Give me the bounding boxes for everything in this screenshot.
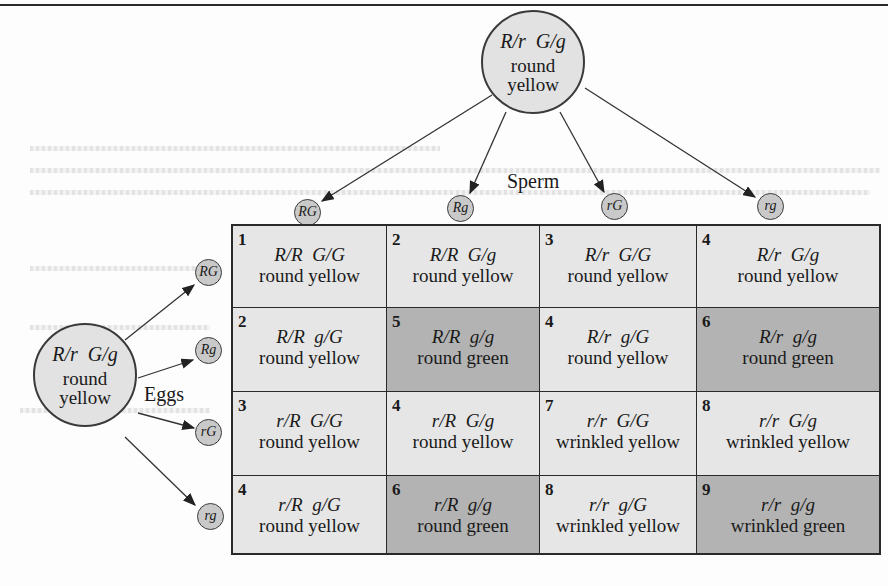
sperm-gamete-rg: rg xyxy=(757,193,784,220)
arrow-egg-Rg xyxy=(138,360,193,378)
egg-gamete-Rg: Rg xyxy=(195,337,222,364)
phenotype-class-number: 4 xyxy=(702,230,711,250)
cell-phenotype: round yellow xyxy=(387,265,539,287)
cell-phenotype: round yellow xyxy=(233,347,386,369)
cell-genotype: R/R G/g xyxy=(387,245,539,265)
punnett-cell: 8r/r G/gwrinkled yellow xyxy=(697,392,879,476)
cell-phenotype: round green xyxy=(697,347,879,369)
phenotype-class-number: 2 xyxy=(392,230,401,250)
cell-genotype: r/R g/G xyxy=(233,495,386,515)
cell-genotype: r/r G/g xyxy=(697,411,879,431)
cell-phenotype: wrinkled green xyxy=(697,515,879,537)
sperm-gamete-Rg: Rg xyxy=(447,195,474,222)
cell-phenotype: round yellow xyxy=(697,265,879,287)
phenotype-class-number: 4 xyxy=(392,396,401,416)
cell-phenotype: wrinkled yellow xyxy=(697,431,879,453)
cell-phenotype: round yellow xyxy=(233,515,386,537)
punnett-cell: 7r/r G/Gwrinkled yellow xyxy=(540,392,697,476)
cell-genotype: r/R G/g xyxy=(387,411,539,431)
punnett-cell: 5R/R g/ground green xyxy=(387,308,540,392)
punnett-cell: 4r/R g/Ground yellow xyxy=(233,476,387,553)
punnett-cell: 4r/R G/ground yellow xyxy=(387,392,540,476)
egg-gamete-rg: rg xyxy=(197,503,224,530)
phenotype-class-number: 8 xyxy=(702,396,711,416)
cell-phenotype: round green xyxy=(387,347,539,369)
sperm-gamete-rG: rG xyxy=(601,193,628,220)
punnett-cell: 9r/r g/gwrinkled green xyxy=(697,476,879,553)
punnett-cell: 1R/R G/Ground yellow xyxy=(233,226,387,308)
phenotype-class-number: 4 xyxy=(545,312,554,332)
phenotype-class-number: 4 xyxy=(238,480,247,500)
cell-genotype: R/R g/G xyxy=(233,327,386,347)
punnett-cell: 6r/R g/ground green xyxy=(387,476,540,553)
phenotype-class-number: 2 xyxy=(238,312,247,332)
male-parent-phenotype-2: yellow xyxy=(507,75,559,94)
sperm-gamete-RG: RG xyxy=(294,199,321,226)
cell-genotype: R/r G/g xyxy=(697,245,879,265)
cell-genotype: r/R G/G xyxy=(233,411,386,431)
arrow-egg-RG xyxy=(125,285,194,340)
cell-phenotype: round green xyxy=(387,515,539,537)
cell-phenotype: round yellow xyxy=(233,265,386,287)
phenotype-class-number: 6 xyxy=(392,480,401,500)
punnett-cell: 3r/R G/Ground yellow xyxy=(233,392,387,476)
punnett-cell: 2R/R g/Ground yellow xyxy=(233,308,387,392)
arrow-sperm-rG xyxy=(560,112,604,192)
eggs-label: Eggs xyxy=(144,383,184,406)
male-parent-genotype: R/r G/g xyxy=(500,30,566,52)
cell-genotype: r/r g/G xyxy=(540,495,696,515)
punnett-cell: 3R/r G/Ground yellow xyxy=(540,226,697,308)
phenotype-class-number: 6 xyxy=(702,312,711,332)
punnett-cell: 6R/r g/ground green xyxy=(697,308,879,392)
male-parent-circle: R/r G/g round yellow xyxy=(481,10,585,114)
arrow-egg-rg xyxy=(125,437,195,505)
cell-genotype: R/r g/g xyxy=(697,327,879,347)
cell-genotype: R/R g/g xyxy=(387,327,539,347)
cell-phenotype: wrinkled yellow xyxy=(540,515,696,537)
arrow-sperm-RG xyxy=(322,95,492,201)
punnett-cell: 8r/r g/Gwrinkled yellow xyxy=(540,476,697,553)
phenotype-class-number: 9 xyxy=(702,480,711,500)
arrow-sperm-rg xyxy=(585,88,755,197)
cell-genotype: R/r g/G xyxy=(540,327,696,347)
cell-genotype: R/R G/G xyxy=(233,245,386,265)
cell-genotype: r/r G/G xyxy=(540,411,696,431)
cell-genotype: R/r G/G xyxy=(540,245,696,265)
male-parent-phenotype-1: round xyxy=(511,56,555,75)
cell-phenotype: wrinkled yellow xyxy=(540,431,696,453)
punnett-cell: 2R/R G/ground yellow xyxy=(387,226,540,308)
egg-gamete-rG: rG xyxy=(195,419,222,446)
phenotype-class-number: 7 xyxy=(545,396,554,416)
punnett-cell: 4R/r G/ground yellow xyxy=(697,226,879,308)
female-parent-genotype: R/r G/g xyxy=(52,343,118,365)
phenotype-class-number: 5 xyxy=(392,312,401,332)
female-parent-phenotype-1: round xyxy=(63,369,107,388)
arrow-sperm-Rg xyxy=(470,112,506,193)
cell-phenotype: round yellow xyxy=(387,431,539,453)
punnett-cell: 4R/r g/Ground yellow xyxy=(540,308,697,392)
female-parent-phenotype-2: yellow xyxy=(59,388,111,407)
phenotype-class-number: 3 xyxy=(545,230,554,250)
sperm-label: Sperm xyxy=(507,170,559,193)
cell-phenotype: round yellow xyxy=(540,347,696,369)
cell-phenotype: round yellow xyxy=(233,431,386,453)
phenotype-class-number: 1 xyxy=(238,230,247,250)
cell-genotype: r/r g/g xyxy=(697,495,879,515)
female-parent-circle: R/r G/g round yellow xyxy=(33,323,137,427)
punnett-square: 1R/R G/Ground yellow2R/R G/ground yellow… xyxy=(231,224,881,555)
phenotype-class-number: 3 xyxy=(238,396,247,416)
arrow-egg-rG xyxy=(138,413,194,428)
egg-gamete-RG: RG xyxy=(195,259,222,286)
phenotype-class-number: 8 xyxy=(545,480,554,500)
cell-genotype: r/R g/g xyxy=(387,495,539,515)
cell-phenotype: round yellow xyxy=(540,265,696,287)
